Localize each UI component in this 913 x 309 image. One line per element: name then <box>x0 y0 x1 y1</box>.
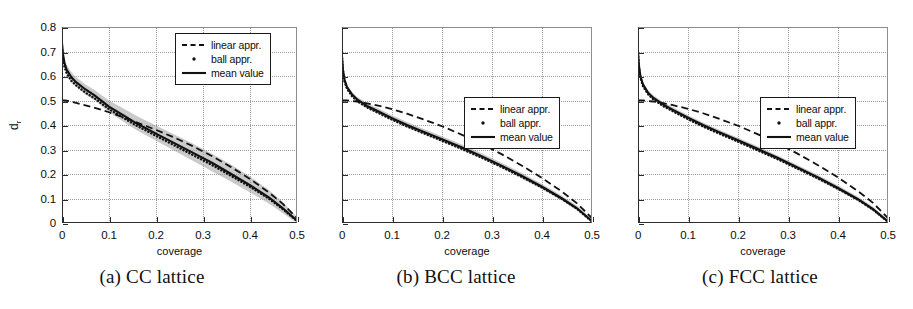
legend-label: linear appr. <box>796 104 846 115</box>
panel-a: 00.10.20.30.40.500.10.20.30.40.50.60.70.… <box>0 0 304 309</box>
legend-label: ball appr. <box>500 118 541 129</box>
x-tick <box>393 217 394 222</box>
x-tick-label: 0.3 <box>195 229 210 241</box>
y-tick <box>343 102 348 103</box>
y-tick <box>343 28 348 29</box>
y-tick <box>63 175 68 176</box>
legend-entry: linear appr. <box>181 38 264 52</box>
y-tick <box>63 77 68 78</box>
x-tick <box>889 217 890 222</box>
legend-label: linear appr. <box>211 40 261 51</box>
legend-entry: mean value <box>766 130 849 144</box>
x-tick <box>739 217 740 222</box>
x-tick-label: 0.2 <box>730 229 745 241</box>
y-tick-label: 0 <box>20 217 56 229</box>
y-tick <box>63 151 68 152</box>
x-tick <box>157 217 158 222</box>
x-tick-label: 0.2 <box>148 229 163 241</box>
x-tick <box>593 217 594 222</box>
x-tick-label: 0.3 <box>780 229 795 241</box>
x-tick <box>543 217 544 222</box>
y-tick <box>343 200 348 201</box>
x-tick-label: 0.1 <box>680 229 695 241</box>
panel-caption-a: (a) CC lattice <box>0 266 304 288</box>
x-tick <box>493 217 494 222</box>
y-tick <box>63 126 68 127</box>
y-tick <box>343 175 348 176</box>
y-tick-label: 0.7 <box>20 46 56 58</box>
y-tick <box>639 77 644 78</box>
y-tick <box>639 200 644 201</box>
legend-entry: ball appr. <box>470 116 553 130</box>
y-tick <box>343 53 348 54</box>
x-tick-label: 0.5 <box>880 229 895 241</box>
panel-caption-c: (c) FCC lattice <box>608 266 912 288</box>
figure-container: 00.10.20.30.40.500.10.20.30.40.50.60.70.… <box>0 0 913 309</box>
panel-b: 00.10.20.30.40.5coveragelinear appr.ball… <box>304 0 608 309</box>
x-tick <box>689 217 690 222</box>
legend-entry: linear appr. <box>766 102 849 116</box>
y-tick-label: 0.3 <box>20 144 56 156</box>
x-tick-label: 0.1 <box>384 229 399 241</box>
solid-line-icon <box>181 68 207 78</box>
x-tick <box>343 217 344 222</box>
x-tick-label: 0.2 <box>434 229 449 241</box>
x-tick-label: 0.4 <box>534 229 549 241</box>
legend-label: linear appr. <box>500 104 550 115</box>
y-tick <box>639 175 644 176</box>
legend-label: mean value <box>500 132 553 143</box>
y-tick <box>343 77 348 78</box>
y-tick <box>639 28 644 29</box>
x-tick-label: 0 <box>59 229 65 241</box>
solid-line-icon <box>766 132 792 142</box>
legend-entry: ball appr. <box>766 116 849 130</box>
x-tick-label: 0.1 <box>101 229 116 241</box>
dot-marker-icon <box>470 118 496 128</box>
dot-marker-icon <box>181 54 207 64</box>
y-tick <box>63 102 68 103</box>
x-tick <box>204 217 205 222</box>
y-tick <box>343 224 348 225</box>
x-tick-label: 0.5 <box>584 229 599 241</box>
y-tick-label: 0.4 <box>20 119 56 131</box>
legend-label: ball appr. <box>211 54 252 65</box>
y-tick-label: 0.2 <box>20 168 56 180</box>
y-tick <box>63 200 68 201</box>
y-tick <box>343 151 348 152</box>
y-tick <box>63 224 68 225</box>
legend-c: linear appr.ball appr.mean value <box>760 97 856 149</box>
legend-label: mean value <box>796 132 849 143</box>
y-tick-label: 0.8 <box>20 21 56 33</box>
legend-entry: mean value <box>470 130 553 144</box>
x-tick <box>443 217 444 222</box>
x-tick-label: 0.4 <box>830 229 845 241</box>
x-tick-label: 0 <box>635 229 641 241</box>
dashed-line-icon <box>470 104 496 114</box>
legend-label: ball appr. <box>796 118 837 129</box>
y-tick <box>639 53 644 54</box>
y-tick-label: 0.1 <box>20 193 56 205</box>
y-tick <box>639 102 644 103</box>
legend-b: linear appr.ball appr.mean value <box>464 97 560 149</box>
x-tick-label: 0.3 <box>484 229 499 241</box>
y-tick <box>639 151 644 152</box>
y-tick <box>639 126 644 127</box>
legend-entry: mean value <box>181 66 264 80</box>
x-tick <box>639 217 640 222</box>
y-tick <box>63 53 68 54</box>
x-tick <box>110 217 111 222</box>
panel-caption-b: (b) BCC lattice <box>304 266 608 288</box>
x-axis-title: coverage <box>444 245 489 257</box>
y-tick <box>343 126 348 127</box>
x-tick-label: 0.4 <box>242 229 257 241</box>
solid-line-icon <box>470 132 496 142</box>
y-tick <box>63 28 68 29</box>
x-axis-title: coverage <box>740 245 785 257</box>
legend-entry: ball appr. <box>181 52 264 66</box>
dot-marker-icon <box>766 118 792 128</box>
x-tick <box>298 217 299 222</box>
x-tick <box>839 217 840 222</box>
y-tick-label: 0.5 <box>20 95 56 107</box>
y-tick <box>639 224 644 225</box>
x-tick <box>63 217 64 222</box>
